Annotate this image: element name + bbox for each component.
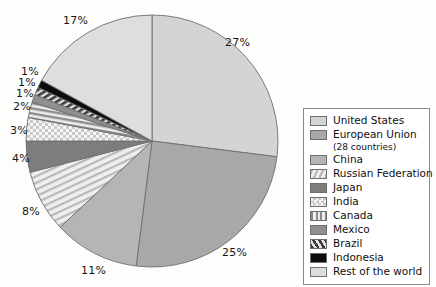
pie-slice-united-states[interactable] bbox=[152, 15, 278, 157]
pie-slices-group bbox=[26, 15, 278, 267]
chart-legend: United States European Union (28 countri… bbox=[303, 108, 430, 285]
legend-label-brazil: Brazil bbox=[333, 237, 362, 249]
legend-item-russian-federation[interactable]: Russian Federation bbox=[310, 167, 424, 180]
slice-label-russian-federation: 8% bbox=[22, 205, 40, 218]
legend-label-china: China bbox=[333, 153, 363, 165]
legend-label-european-union: European Union bbox=[333, 128, 417, 140]
swatch-indonesia bbox=[310, 253, 327, 263]
slice-label-indonesia: 1% bbox=[21, 65, 39, 78]
swatch-russian-federation bbox=[310, 169, 327, 179]
legend-item-european-union[interactable]: European Union (28 countries) bbox=[310, 128, 424, 153]
legend-label-mexico: Mexico bbox=[333, 223, 370, 235]
legend-item-united-states[interactable]: United States bbox=[310, 114, 424, 127]
slice-label-united-states: 27% bbox=[225, 36, 250, 49]
legend-label-canada: Canada bbox=[333, 209, 373, 221]
slice-label-european-union: 25% bbox=[222, 246, 247, 259]
legend-item-mexico[interactable]: Mexico bbox=[310, 223, 424, 236]
slice-label-canada: 2% bbox=[13, 100, 31, 113]
swatch-mexico bbox=[310, 225, 327, 235]
pie-chart-area: 27% 25% 11% 8% 4% 3% 2% 1% 1% 1% 17% bbox=[0, 0, 300, 287]
legend-item-japan[interactable]: Japan bbox=[310, 181, 424, 194]
slice-label-rest-of-the-world: 17% bbox=[63, 14, 88, 27]
swatch-brazil bbox=[310, 239, 327, 249]
scan-bleed-through-artifact: ​ bbox=[0, 271, 436, 287]
swatch-european-union bbox=[310, 130, 327, 140]
pie-chart-svg bbox=[0, 0, 300, 287]
legend-item-india[interactable]: India bbox=[310, 195, 424, 208]
legend-item-china[interactable]: China bbox=[310, 153, 424, 166]
swatch-china bbox=[310, 155, 327, 165]
slice-label-japan: 4% bbox=[12, 152, 30, 165]
swatch-canada bbox=[310, 211, 327, 221]
legend-sublabel-european-union: (28 countries) bbox=[310, 142, 424, 153]
legend-label-russian-federation: Russian Federation bbox=[333, 167, 433, 179]
swatch-united-states bbox=[310, 116, 327, 126]
legend-label-japan: Japan bbox=[333, 181, 362, 193]
legend-item-brazil[interactable]: Brazil bbox=[310, 237, 424, 250]
legend-label-united-states: United States bbox=[333, 114, 404, 126]
legend-item-canada[interactable]: Canada bbox=[310, 209, 424, 222]
swatch-japan bbox=[310, 183, 327, 193]
legend-label-indonesia: Indonesia bbox=[333, 251, 384, 263]
swatch-india bbox=[310, 197, 327, 207]
pie-slice-european-union[interactable] bbox=[136, 141, 277, 267]
legend-item-indonesia[interactable]: Indonesia bbox=[310, 251, 424, 264]
legend-label-india: India bbox=[333, 195, 359, 207]
slice-label-india: 3% bbox=[10, 124, 28, 137]
